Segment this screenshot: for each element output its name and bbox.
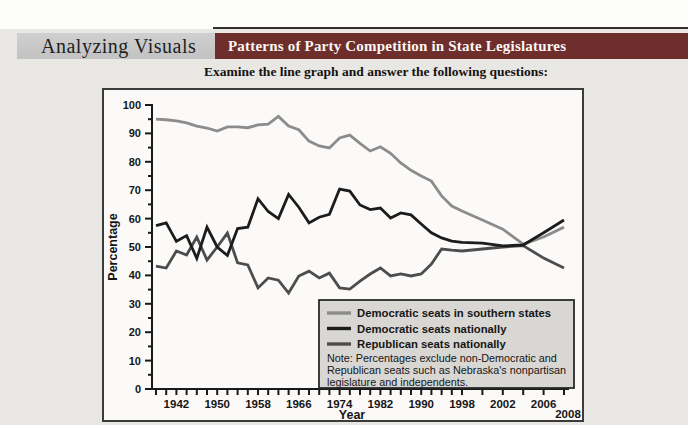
x-tick-label: 2006 xyxy=(531,398,557,410)
y-tick-label: 50 xyxy=(129,241,141,253)
y-tick-label: 40 xyxy=(129,269,141,281)
x-tick-label: 1942 xyxy=(164,398,190,410)
y-tick-label: 90 xyxy=(129,127,141,139)
x-tick-label: 1982 xyxy=(368,398,394,410)
legend-label-2: Republican seats nationally xyxy=(357,338,507,350)
instruction-text: Examine the line graph and answer the fo… xyxy=(204,64,548,80)
legend-label-1: Democratic seats nationally xyxy=(357,323,507,335)
x-tick-label: 1966 xyxy=(286,398,312,410)
legend-note-line: Republican seats such as Nebraska's nonp… xyxy=(327,364,566,376)
y-axis-title: Percentage xyxy=(106,213,120,280)
y-tick-label: 0 xyxy=(135,383,141,395)
y-tick-label: 70 xyxy=(129,184,141,196)
chart-panel: 0102030405060708090100194219501958196619… xyxy=(102,88,584,422)
y-tick-label: 20 xyxy=(129,326,141,338)
x-end-label: 2008 xyxy=(555,408,581,420)
figure-title-bar: Patterns of Party Competition in State L… xyxy=(215,33,688,59)
section-kicker-label: Analyzing Visuals xyxy=(17,35,196,58)
x-tick-label: 1990 xyxy=(408,398,434,410)
series-line-0 xyxy=(156,116,564,244)
legend-note-line: legislature and independents. xyxy=(327,376,468,388)
x-axis-ticks: 1942195019581966197419821990199820022006… xyxy=(156,389,581,420)
top-margin xyxy=(0,0,688,29)
y-tick-label: 100 xyxy=(123,99,141,111)
legend: Democratic seats in southern statesDemoc… xyxy=(319,300,574,388)
line-chart: 0102030405060708090100194219501958196619… xyxy=(104,90,582,420)
y-tick-label: 30 xyxy=(129,298,141,310)
x-axis-title: Year xyxy=(339,408,366,420)
textbook-page: Analyzing Visuals Patterns of Party Comp… xyxy=(0,0,688,425)
x-tick-label: 1958 xyxy=(245,398,271,410)
figure-title: Patterns of Party Competition in State L… xyxy=(215,38,566,55)
series-line-2 xyxy=(156,233,564,293)
header-rule xyxy=(213,27,688,29)
legend-label-0: Democratic seats in southern states xyxy=(357,307,551,319)
x-tick-label: 1998 xyxy=(449,398,475,410)
y-tick-label: 10 xyxy=(129,355,141,367)
y-axis-ticks: 0102030405060708090100 xyxy=(123,99,152,395)
x-tick-label: 1950 xyxy=(204,398,230,410)
legend-note-line: Note: Percentages exclude non-Democratic… xyxy=(327,352,557,364)
y-tick-label: 60 xyxy=(129,213,141,225)
y-tick-label: 80 xyxy=(129,156,141,168)
x-tick-label: 2002 xyxy=(490,398,516,410)
section-kicker-band: Analyzing Visuals xyxy=(17,33,215,59)
